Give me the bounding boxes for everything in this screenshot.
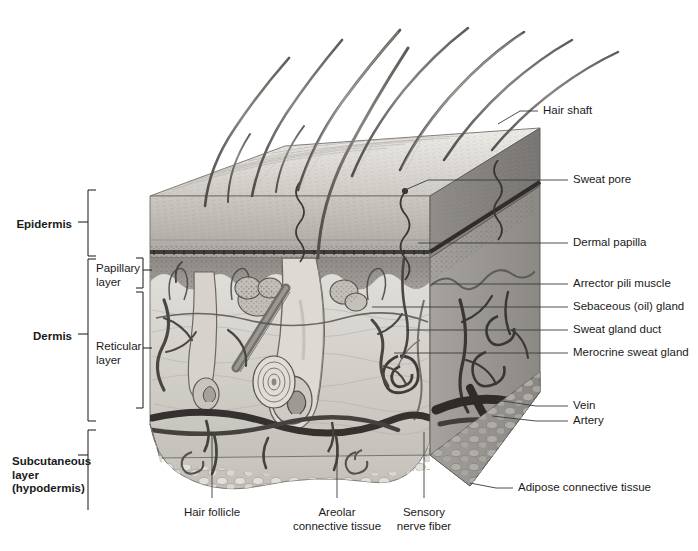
callout-label-hair-follicle-line-1: Hair follicle	[142, 506, 282, 520]
epidermis-front-face	[150, 196, 430, 258]
layer-label-subcutaneous-line-3: (hypodermis)	[12, 482, 91, 496]
layer-label-subcutaneous-line-1: Subcutaneous	[12, 455, 91, 469]
leader-line-adipose-connective-tissue	[470, 483, 496, 488]
callout-label-sweat-pore: Sweat pore	[573, 173, 631, 187]
callout-label-dermal-papilla: Dermal papilla	[573, 236, 647, 250]
sublayer-label-papillary-line-2: layer	[96, 276, 140, 290]
sublayer-label-reticular: Reticularlayer	[96, 340, 141, 367]
callout-label-sensory-nerve-fiber: Sensorynerve fiber	[354, 506, 494, 533]
bracket-epidermis	[78, 190, 96, 256]
dermis-front-face	[150, 258, 430, 466]
layer-label-dermis: Dermis	[0, 330, 72, 344]
callout-label-hair-follicle: Hair follicle	[142, 506, 282, 520]
sublayer-label-reticular-line-1: Reticular	[96, 340, 141, 354]
callout-label-sensory-nerve-fiber-line-1: Sensory	[354, 506, 494, 520]
layer-label-subcutaneous-line-2: layer	[12, 469, 91, 483]
callout-label-artery: Artery	[573, 414, 604, 428]
bracket-dermis	[78, 259, 96, 421]
figure-canvas: EpidermisDermisSubcutaneouslayer(hypoder…	[0, 0, 698, 551]
callout-label-adipose-connective-tissue: Adipose connective tissue	[518, 481, 651, 495]
callout-label-arrector-pili-muscle: Arrector pili muscle	[573, 277, 671, 291]
sublayer-label-papillary-line-1: Papillary	[96, 262, 140, 276]
callout-label-sweat-gland-duct: Sweat gland duct	[573, 323, 661, 337]
callout-label-vein: Vein	[573, 399, 595, 413]
layer-label-subcutaneous: Subcutaneouslayer(hypodermis)	[12, 455, 91, 496]
layer-label-epidermis: Epidermis	[0, 218, 72, 232]
lamellated-corpuscle	[253, 356, 295, 408]
callout-label-sensory-nerve-fiber-line-2: nerve fiber	[354, 520, 494, 534]
callout-label-sebaceous-gland: Sebaceous (oil) gland	[573, 300, 684, 314]
callout-label-hair-shaft: Hair shaft	[543, 104, 592, 118]
callout-label-merocrine-sweat-gland: Merocrine sweat gland	[573, 346, 689, 360]
sublayer-label-reticular-line-2: layer	[96, 354, 141, 368]
sublayer-label-papillary: Papillarylayer	[96, 262, 140, 289]
